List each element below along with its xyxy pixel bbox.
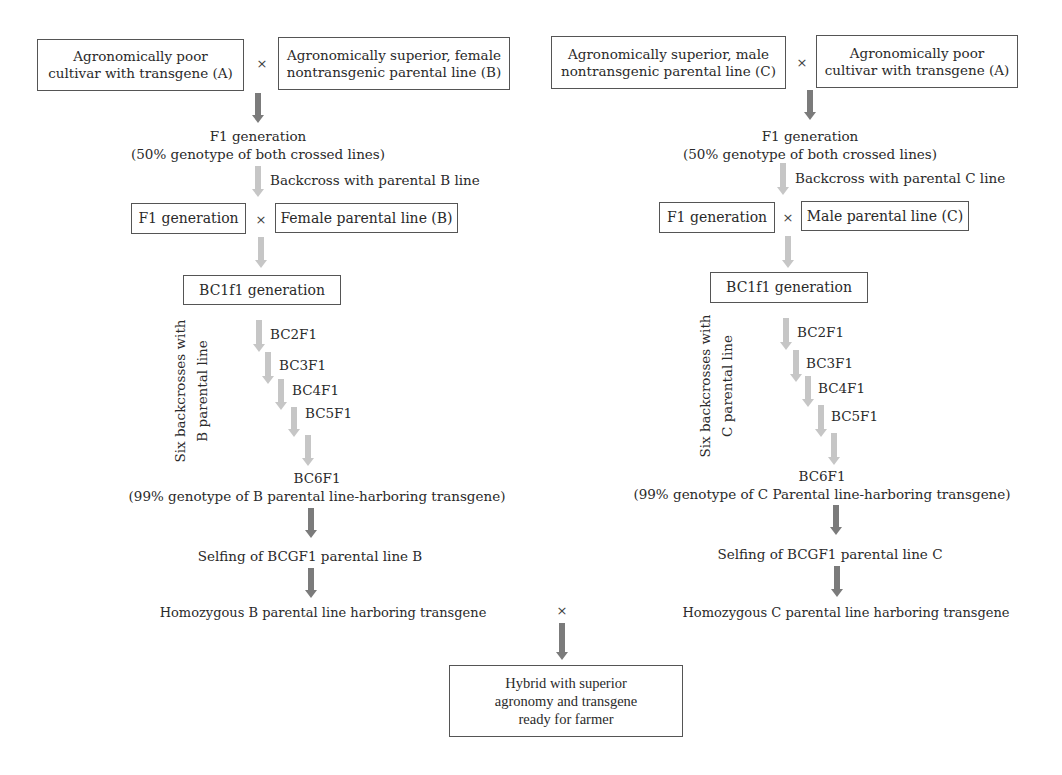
left-bc1-box: BC1f1 generation	[183, 275, 341, 305]
right-side-label: Six backcrosses with C parental line	[694, 314, 738, 457]
right-selfing: Selfing of BCGF1 parental line C	[718, 546, 943, 563]
arrow-down-icon	[302, 435, 314, 466]
right-bc6-title: BC6F1	[798, 468, 845, 485]
left-side-label-line2: B parental line	[191, 319, 213, 462]
left-recurrent-parent-label: Female parental line (B)	[280, 210, 452, 227]
left-parent-a-line2: cultivar with transgene (A)	[48, 65, 232, 82]
right-parent-a-line2: cultivar with transgene (A)	[825, 62, 1009, 79]
left-cross-symbol: ×	[257, 56, 268, 71]
left-step-bc4: BC4F1	[292, 382, 339, 399]
arrow-down-icon	[780, 318, 792, 350]
left-parent-b-box: Agronomically superior, female nontransg…	[278, 37, 510, 90]
left-step-bc2: BC2F1	[270, 326, 317, 343]
right-cross-symbol-2: ×	[783, 210, 794, 225]
arrow-down-icon	[790, 350, 802, 382]
left-bc1-label: BC1f1 generation	[199, 282, 325, 299]
right-f1-note: (50% genotype of both crossed lines)	[683, 146, 937, 163]
arrow-down-icon	[255, 237, 267, 268]
right-recurrent-parent-label: Male parental line (C)	[807, 208, 963, 225]
left-recurrent-parent-box: Female parental line (B)	[275, 203, 458, 233]
arrow-down-icon	[782, 236, 794, 268]
left-step-bc3: BC3F1	[279, 357, 326, 374]
left-f1-box: F1 generation	[131, 203, 246, 234]
arrow-down-icon	[288, 407, 300, 437]
right-parent-a-line1: Agronomically poor	[850, 45, 984, 62]
arrow-down-icon	[262, 352, 274, 384]
right-side-label-line1: Six backcrosses with	[694, 314, 716, 457]
right-backcross-label: Backcross with parental C line	[795, 170, 1005, 187]
arrow-down-icon	[830, 505, 842, 535]
right-bc6-note: (99% genotype of C Parental line-harbori…	[633, 486, 1010, 503]
left-f1-title: F1 generation	[210, 128, 307, 145]
left-step-bc5: BC5F1	[305, 405, 352, 422]
left-f1-note: (50% genotype of both crossed lines)	[131, 146, 385, 163]
left-selfing: Selfing of BCGF1 parental line B	[198, 548, 423, 565]
right-homozygous: Homozygous C parental line harboring tra…	[682, 604, 1009, 621]
left-parent-b-line1: Agronomically superior, female	[287, 47, 501, 64]
left-parent-b-line2: nontransgenic parental line (B)	[287, 64, 502, 81]
left-side-label-line1: Six backcrosses with	[169, 319, 191, 462]
right-cross-symbol: ×	[797, 55, 808, 70]
hybrid-line2: agronomy and transgene	[495, 692, 638, 710]
left-parent-a-line1: Agronomically poor	[73, 48, 207, 65]
left-homozygous: Homozygous B parental line harboring tra…	[160, 604, 487, 621]
arrow-down-icon	[253, 320, 265, 352]
arrow-down-icon	[556, 623, 568, 660]
arrow-down-icon	[815, 405, 827, 437]
arrow-down-icon	[305, 568, 317, 598]
right-step-bc5: BC5F1	[831, 408, 878, 425]
left-f1-box-label: F1 generation	[138, 210, 238, 227]
arrow-down-icon	[804, 90, 816, 120]
right-f1-title: F1 generation	[762, 128, 859, 145]
right-parent-c-line2: nontransgenic parental line (C)	[561, 63, 776, 80]
arrow-down-icon	[252, 93, 264, 123]
left-parent-a-box: Agronomically poor cultivar with transge…	[37, 39, 244, 91]
final-cross-symbol: ×	[557, 603, 568, 618]
right-f1-box: F1 generation	[659, 202, 775, 233]
arrow-down-icon	[828, 433, 840, 465]
hybrid-result-box: Hybrid with superior agronomy and transg…	[449, 665, 683, 737]
right-parent-c-line1: Agronomically superior, male	[568, 46, 769, 63]
right-recurrent-parent-box: Male parental line (C)	[801, 201, 969, 231]
right-step-bc3: BC3F1	[806, 355, 853, 372]
hybrid-line1: Hybrid with superior	[505, 674, 627, 692]
right-bc1-label: BC1f1 generation	[726, 279, 852, 296]
arrow-down-icon	[831, 566, 843, 597]
arrow-down-icon	[305, 508, 317, 538]
arrow-down-icon	[252, 166, 264, 197]
arrow-down-icon	[275, 379, 287, 410]
left-bc6-title: BC6F1	[293, 470, 340, 487]
left-side-label: Six backcrosses with B parental line	[169, 319, 213, 462]
right-parent-a-box: Agronomically poor cultivar with transge…	[816, 35, 1018, 88]
left-bc6-note: (99% genotype of B parental line-harbori…	[129, 488, 506, 505]
left-backcross-label: Backcross with parental B line	[270, 172, 480, 189]
hybrid-line3: ready for farmer	[519, 710, 614, 728]
right-step-bc2: BC2F1	[797, 324, 844, 341]
arrow-down-icon	[802, 376, 814, 407]
right-step-bc4: BC4F1	[818, 380, 865, 397]
right-parent-c-box: Agronomically superior, male nontransgen…	[551, 36, 786, 89]
right-bc1-box: BC1f1 generation	[710, 272, 868, 303]
arrow-down-icon	[777, 163, 789, 195]
left-cross-symbol-2: ×	[256, 212, 267, 227]
right-f1-box-label: F1 generation	[667, 209, 767, 226]
right-side-label-line2: C parental line	[716, 314, 738, 457]
